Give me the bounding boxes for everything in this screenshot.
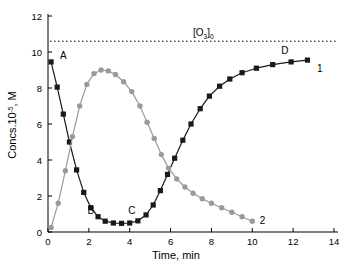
data-point: [70, 134, 75, 139]
data-point: [144, 120, 149, 125]
data-point: [219, 205, 224, 210]
x-tick-label: 14: [329, 236, 340, 247]
data-point: [227, 76, 232, 81]
x-tick-label: 0: [45, 236, 50, 247]
data-point: [190, 191, 195, 196]
data-point: [74, 167, 79, 172]
data-point: [48, 59, 53, 64]
y-tick-label: 12: [31, 11, 42, 22]
data-point: [55, 85, 60, 90]
y-tick-label: 8: [37, 83, 42, 94]
y-tick-label: 2: [37, 191, 42, 202]
annotation-C: C: [128, 205, 135, 216]
data-point: [182, 184, 187, 189]
data-point: [289, 59, 294, 64]
data-point: [137, 103, 142, 108]
x-tick-label: 10: [247, 236, 258, 247]
data-point: [217, 84, 222, 89]
data-point: [77, 103, 82, 108]
y-axis-title: Concs.10-5, M: [6, 91, 18, 159]
data-point: [113, 72, 118, 77]
y-tick-label: 0: [37, 227, 42, 238]
x-tick-label: 12: [288, 236, 299, 247]
data-point: [91, 71, 96, 76]
data-point: [63, 168, 68, 173]
data-point: [254, 66, 259, 71]
annotation-D: D: [281, 45, 288, 56]
data-point: [135, 218, 140, 223]
data-point: [158, 188, 163, 193]
data-point: [61, 112, 66, 117]
data-point: [239, 214, 244, 219]
x-tick-label: 8: [209, 236, 214, 247]
y-tick-label: 6: [37, 119, 42, 130]
annotation-2: 2: [260, 215, 266, 226]
annotation-1: 1: [317, 63, 323, 74]
y-tick-label: 4: [37, 155, 42, 166]
data-point: [84, 82, 89, 87]
data-point: [95, 214, 100, 219]
data-point: [200, 196, 205, 201]
annotation-B: B: [88, 205, 95, 216]
data-point: [121, 79, 126, 84]
data-point: [56, 201, 61, 206]
data-point: [270, 62, 275, 67]
data-point: [165, 172, 170, 177]
data-point: [152, 136, 157, 141]
svg-text:Concs.10-5, M: Concs.10-5, M: [6, 91, 18, 159]
x-tick-label: 6: [168, 236, 173, 247]
data-point: [103, 219, 108, 224]
data-point: [166, 165, 171, 170]
data-point: [159, 152, 164, 157]
data-point: [98, 67, 103, 72]
x-tick-label: 2: [86, 236, 91, 247]
data-point: [127, 220, 132, 225]
annotation-A: A: [60, 50, 67, 61]
x-tick-label: 4: [127, 236, 132, 247]
data-point: [48, 225, 53, 230]
data-point: [207, 94, 212, 99]
data-point: [209, 201, 214, 206]
data-point: [180, 138, 185, 143]
data-point: [229, 210, 234, 215]
data-point: [119, 221, 124, 226]
data-point: [174, 176, 179, 181]
data-point: [305, 58, 310, 63]
data-point: [106, 68, 111, 73]
data-point: [172, 156, 177, 161]
y-tick-label: 10: [31, 47, 42, 58]
data-point: [239, 70, 244, 75]
chart-container: 02468101214 024681012 [O3]0 ABCD12 Time,…: [0, 0, 352, 273]
data-point: [151, 202, 156, 207]
data-point: [143, 212, 148, 217]
y-axis-title-tail: , M: [6, 91, 18, 106]
data-point: [111, 220, 116, 225]
line-chart: 02468101214 024681012 [O3]0 ABCD12 Time,…: [0, 0, 352, 273]
x-axis-title: Time, min: [152, 249, 200, 261]
data-point: [81, 190, 86, 195]
y-axis-title-main: Concs.10: [6, 112, 18, 158]
data-point: [198, 106, 203, 111]
data-point: [129, 89, 134, 94]
data-point: [250, 219, 255, 224]
data-point: [188, 121, 193, 126]
